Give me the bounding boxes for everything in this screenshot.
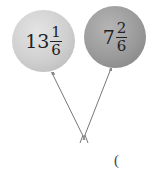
mixed-number: 7 2 6 [103,21,128,54]
numerator: 2 [116,21,128,38]
denominator: 6 [117,38,127,54]
denominator: 6 [51,42,61,58]
balloon-left: 13 1 6 [12,10,75,72]
balloon-figure: 13 1 6 7 2 6 ( [0,0,152,178]
answer-blank-paren: ( [114,152,119,169]
whole-part: 7 [103,28,115,47]
numerator: 1 [50,25,62,42]
fraction: 2 6 [116,21,128,54]
fraction: 1 6 [50,25,62,58]
mixed-number: 13 1 6 [25,25,62,58]
balloon-right: 7 2 6 [84,6,146,68]
whole-part: 13 [25,32,49,51]
